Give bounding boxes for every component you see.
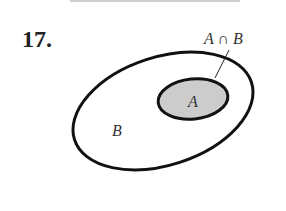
set-a-label: A — [187, 93, 198, 110]
intersection-label: A ∩ B — [203, 30, 243, 47]
set-b-label: B — [112, 122, 122, 139]
venn-diagram: A B A ∩ B — [0, 0, 286, 211]
